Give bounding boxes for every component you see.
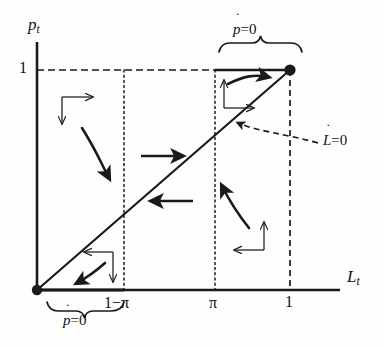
- p-dot-bottom-rest: =0: [71, 312, 87, 328]
- x-axis-label: Lt: [347, 268, 360, 287]
- x-axis-label-sub: t: [356, 275, 359, 288]
- y-axis-label: pt: [28, 16, 40, 35]
- flow-arrow-top-left: [82, 128, 109, 178]
- p-dot-top-symbol: p˙: [233, 22, 241, 37]
- l-dot-zero-diagonal: [37, 70, 290, 290]
- y-axis-label-sub: t: [37, 23, 40, 36]
- brace-top: [219, 36, 302, 52]
- l-dot-symbol: L˙: [323, 133, 331, 148]
- flow-arrow-bottom-right: [222, 186, 249, 228]
- origin-node: [32, 285, 42, 295]
- l-dot-rest: =0: [331, 132, 347, 148]
- l-dot-zero-leader: [238, 123, 318, 143]
- flow-arrow-top-right: [228, 76, 268, 84]
- p-dot-zero-top-label: p˙=0: [233, 22, 256, 37]
- p-dot-top-rest: =0: [241, 21, 257, 37]
- p-dot-zero-bottom-label: p˙=0: [63, 313, 86, 328]
- diagram-canvas: [0, 0, 384, 346]
- flow-arrow-bottom-left: [77, 263, 105, 283]
- upper-node: [284, 64, 295, 75]
- l-dot-zero-label: L˙=0: [323, 133, 347, 148]
- phase-diagram-figure: pt Lt 1 1−π π 1 p˙=0 p˙=0 L˙=0: [0, 0, 384, 346]
- y-tick-label-1: 1: [19, 60, 27, 76]
- x-tick-label-one: 1: [285, 294, 293, 310]
- y-axis-label-base: p: [28, 15, 37, 34]
- cross-upper-left: [62, 97, 93, 124]
- x-tick-label-one-minus-pi: 1−π: [104, 295, 129, 311]
- p-dot-bottom-symbol: p˙: [63, 313, 71, 328]
- x-tick-label-pi: π: [209, 295, 217, 311]
